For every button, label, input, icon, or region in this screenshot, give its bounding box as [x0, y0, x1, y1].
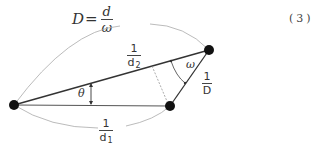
lower-arc: [14, 105, 98, 128]
upper-arc: [14, 26, 120, 105]
label-upper-arc: 1 d2: [127, 43, 141, 72]
triangle-diagram: [0, 0, 317, 153]
edge-left-bottomright: [14, 105, 170, 106]
upper-arc-right: [150, 24, 209, 50]
label-theta: θ: [78, 87, 85, 100]
omega-arc-end-top: [170, 60, 172, 62]
lower-arc-right: [126, 106, 170, 126]
theta-arrow-down: [89, 101, 93, 105]
point-left: [9, 100, 19, 110]
point-bottom-right: [165, 101, 175, 111]
omega-arc: [171, 61, 185, 83]
omega-arc-end-bottom: [184, 82, 186, 84]
label-lower-arc: 1 d1: [99, 118, 113, 147]
label-right-side: 1 D: [202, 71, 212, 97]
label-omega: ω: [186, 58, 195, 71]
dashed-projection: [152, 66, 169, 106]
point-top-right: [204, 45, 214, 55]
